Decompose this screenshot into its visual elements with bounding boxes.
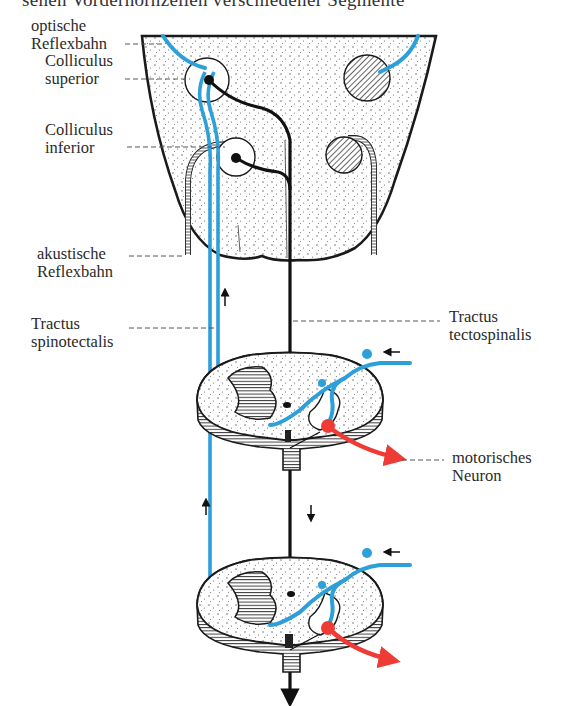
label-tractus-tectospinalis: Tractus tectospinalis <box>449 308 531 344</box>
label-colliculus-inferior: Colliculus inferior <box>45 121 113 157</box>
label-optische-reflexbahn: optische Reflexbahn <box>31 17 107 53</box>
colliculus-inferior-right <box>326 137 362 173</box>
label-tractus-spinotectalis: Tractus spinotectalis <box>31 315 113 351</box>
reflex-pathway-diagram <box>0 0 574 706</box>
neuron-soma-superior <box>204 75 214 85</box>
label-colliculus-superior: Colliculus superior <box>45 52 113 88</box>
colliculus-superior-right <box>344 55 390 101</box>
label-motorisches-neuron: motorisches Neuron <box>452 449 532 485</box>
neuron-soma-inferior <box>231 153 241 163</box>
label-akustische-reflexbahn: akustische Reflexbahn <box>37 245 113 281</box>
